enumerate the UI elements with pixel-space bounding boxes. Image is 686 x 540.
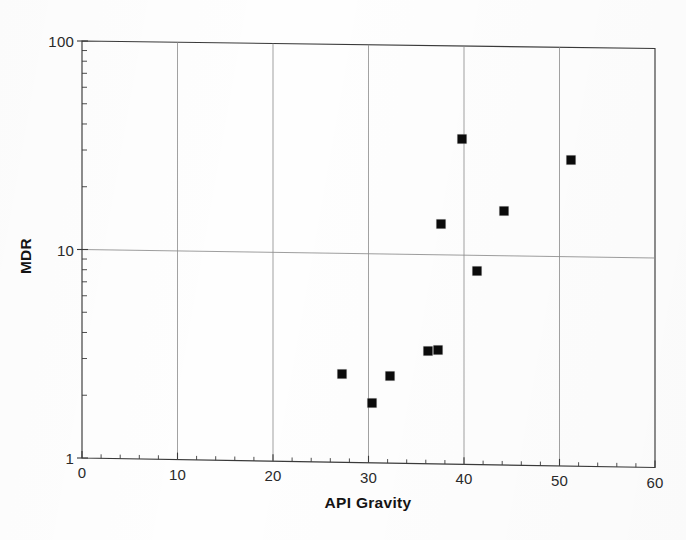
plot-area [82, 41, 655, 458]
data-point [337, 369, 346, 378]
x-tick-label: 60 [646, 474, 663, 491]
data-point [458, 135, 467, 144]
y-tick-label: 1 [28, 450, 74, 467]
chart-figure: MDR API Gravity 110100 0102030405060 [0, 0, 686, 540]
data-point [500, 206, 509, 215]
y-tick-label: 10 [28, 241, 74, 258]
x-tick-label: 40 [455, 470, 472, 487]
data-point [566, 155, 575, 164]
data-point [434, 346, 443, 355]
data-point [423, 347, 432, 356]
data-point [386, 371, 395, 380]
data-point [368, 398, 377, 407]
data-point [473, 266, 482, 275]
data-point [437, 219, 446, 228]
y-tick-label: 100 [28, 33, 74, 50]
x-axis-title: API Gravity [325, 494, 412, 512]
x-tick-label: 50 [551, 472, 568, 489]
x-tick-label: 30 [360, 469, 377, 486]
